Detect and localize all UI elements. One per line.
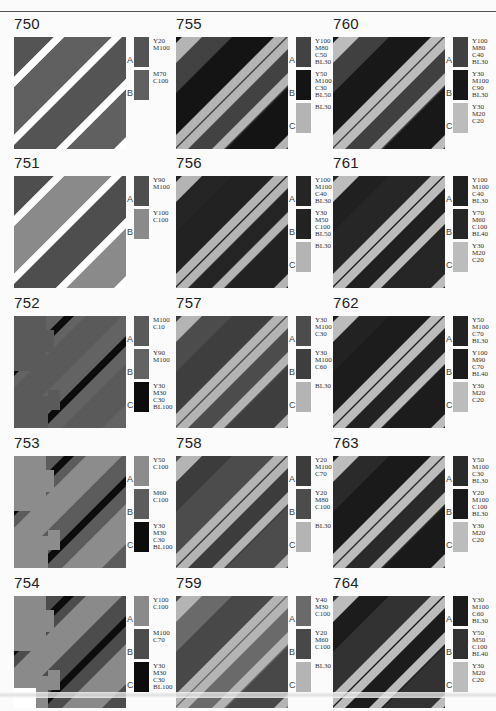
chip-letter-a: A	[127, 55, 133, 65]
cmyk-formula: Y100 M80 C50 BL30	[315, 38, 331, 66]
color-chip-a	[453, 176, 468, 206]
cmyk-formula: Y20 M100 C100 BL30	[472, 490, 489, 518]
chip-letter-b: B	[289, 367, 295, 377]
cmyk-formula: Y100 C100	[153, 210, 169, 224]
stripe-pattern	[333, 176, 445, 288]
color-chip-b	[134, 629, 149, 659]
stripe-pattern	[14, 37, 126, 149]
chip-letter-a: A	[446, 55, 452, 65]
chip-letter-b: B	[446, 507, 452, 517]
swatch-number: 761	[333, 154, 359, 171]
swatch-card-755: 755AY100 M80 C50 BL30BY50 M100 C30 BL50C…	[176, 15, 336, 155]
cmyk-formula: Y50 C100	[153, 457, 168, 471]
swatch-number: 760	[333, 15, 359, 32]
cmyk-formula: Y30 M20 C20	[472, 243, 485, 264]
color-chip-c	[453, 103, 468, 133]
color-chip-a	[296, 37, 311, 67]
cmyk-formula: Y30 M30 C30 BL100	[153, 523, 172, 551]
color-chip-b	[453, 489, 468, 519]
swatch-card-751: 751AY90 M100BY100 C100	[14, 154, 174, 294]
swatch-card-753: 753AY50 C100BM60 C100CY30 M30 C30 BL100	[14, 434, 174, 574]
chip-letter-c: C	[446, 540, 453, 550]
stripe-pattern	[14, 456, 126, 568]
stripe-pattern	[333, 37, 445, 149]
color-chip-b	[134, 209, 149, 239]
stripe-pattern	[176, 456, 288, 568]
color-chip-b	[296, 629, 311, 659]
color-chip-a	[296, 596, 311, 626]
cmyk-formula: BL30	[315, 383, 331, 390]
chip-letter-c: C	[289, 121, 296, 131]
chip-letter-c: C	[289, 540, 296, 550]
color-chip-b	[453, 349, 468, 379]
swatch-card-762: 762AY50 M100 C70 BL30BY100 M90 C70 BL40C…	[333, 294, 493, 434]
swatch-card-758: 758AY20 M100 C70BY20 M80 C100CBL30	[176, 434, 336, 574]
chip-letter-c: C	[127, 400, 134, 410]
cmyk-formula: BL30	[315, 104, 331, 111]
swatch-number: 752	[14, 294, 40, 311]
cmyk-formula: Y30 M100 C30	[315, 317, 332, 338]
cmyk-formula: Y20 M100	[153, 38, 170, 52]
swatch-grid: 750AY20 M100BM70 C100751AY90 M100BY100 C…	[0, 0, 496, 711]
stripe-pattern	[14, 176, 126, 288]
color-chip-a	[296, 316, 311, 346]
chip-letter-c: C	[127, 540, 134, 550]
swatch-number: 755	[176, 15, 202, 32]
swatch-card-763: 763AY50 M100 C30 BL30BY20 M100 C100 BL30…	[333, 434, 493, 574]
chip-letter-b: B	[446, 227, 452, 237]
color-chip-b	[134, 349, 149, 379]
swatch-number: 750	[14, 15, 40, 32]
cmyk-formula: M100 C10	[153, 317, 170, 331]
chip-letter-c: C	[446, 400, 453, 410]
chip-letter-a: A	[446, 474, 452, 484]
chip-letter-a: A	[289, 194, 295, 204]
cmyk-formula: Y100 M80 C40 BL30	[472, 38, 488, 66]
cmyk-formula: Y50 M100 C70 BL30	[472, 317, 489, 345]
cmyk-formula: Y30 M50 C100 BL50	[315, 210, 331, 238]
chip-letter-b: B	[289, 227, 295, 237]
cmyk-formula: Y30 M20 C20	[472, 383, 485, 404]
color-chip-c	[453, 522, 468, 552]
chip-letter-b: B	[446, 88, 452, 98]
chip-letter-a: A	[446, 334, 452, 344]
color-chip-b	[134, 489, 149, 519]
cmyk-formula: Y20 M80 C100	[315, 490, 330, 511]
swatch-number: 754	[14, 574, 40, 591]
stripe-pattern	[176, 37, 288, 149]
cmyk-formula: BL30	[315, 523, 331, 530]
cmyk-formula: M100 C70	[153, 630, 170, 644]
swatch-number: 764	[333, 574, 359, 591]
color-chip-c	[296, 662, 311, 692]
chip-letter-c: C	[127, 680, 134, 690]
color-chip-a	[134, 37, 149, 67]
swatch-card-759: 759AY40 M30 C100BY20 M60 C100CBL30	[176, 574, 336, 711]
swatch-number: 756	[176, 154, 202, 171]
swatch-number: 759	[176, 574, 202, 591]
cmyk-formula: Y100 C100	[153, 597, 169, 611]
color-chip-a	[134, 456, 149, 486]
chip-letter-b: B	[289, 647, 295, 657]
chip-letter-c: C	[289, 680, 296, 690]
cmyk-formula: Y30 M20 C20	[472, 104, 485, 125]
chip-letter-a: A	[289, 334, 295, 344]
cmyk-formula: Y20 M100 C70	[315, 457, 332, 478]
swatch-card-756: 756AY100 M100 C40 BL30BY30 M50 C100 BL50…	[176, 154, 336, 294]
color-chip-a	[296, 456, 311, 486]
swatch-number: 763	[333, 434, 359, 451]
chip-letter-b: B	[446, 367, 452, 377]
swatch-card-750: 750AY20 M100BM70 C100	[14, 15, 174, 155]
color-chip-c	[296, 522, 311, 552]
chip-letter-b: B	[127, 227, 133, 237]
color-chip-b	[453, 209, 468, 239]
scan-shadow	[0, 692, 496, 698]
swatch-number: 753	[14, 434, 40, 451]
color-chip-b	[134, 70, 149, 100]
color-chip-b	[296, 70, 311, 100]
cmyk-formula: Y50 M100 C30 BL50	[315, 71, 332, 99]
chip-letter-b: B	[127, 367, 133, 377]
color-chip-c	[296, 382, 311, 412]
cmyk-formula: BL30	[315, 243, 331, 250]
chip-letter-b: B	[127, 507, 133, 517]
swatch-card-761: 761AY100 M100 C40 BL30BY70 M60 C100 BL40…	[333, 154, 493, 294]
cmyk-formula: Y50 M50 C100 BL40	[472, 630, 488, 658]
